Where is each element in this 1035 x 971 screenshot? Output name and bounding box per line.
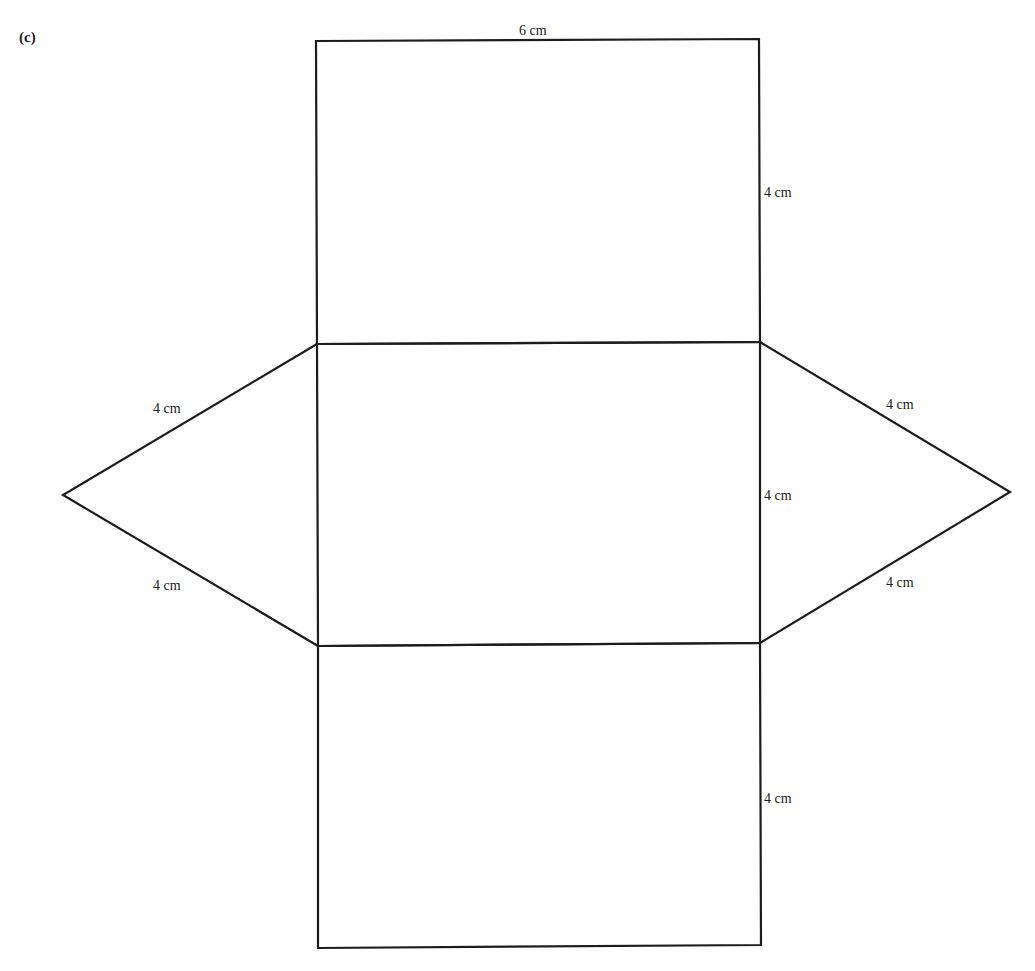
label-right-triangle-upper: 4 cm — [886, 397, 914, 412]
prism-net-diagram: (c) 6 cm 4 cm 4 cm 4 cm 4 cm 4 cm 4 cm 4… — [0, 0, 1035, 971]
label-top-rect-height: 4 cm — [764, 185, 792, 200]
label-bottom-rect-height: 4 cm — [764, 791, 792, 806]
label-left-triangle-upper: 4 cm — [153, 401, 181, 416]
bottom-rectangle — [318, 643, 761, 948]
right-triangle — [760, 342, 1010, 643]
middle-rectangle — [317, 342, 760, 646]
label-right-triangle-lower: 4 cm — [886, 575, 914, 590]
top-rectangle — [316, 39, 760, 344]
label-left-triangle-lower: 4 cm — [153, 578, 181, 593]
part-label: (c) — [19, 29, 36, 46]
label-top-width: 6 cm — [519, 23, 547, 38]
left-triangle — [63, 344, 318, 646]
label-middle-rect-height: 4 cm — [764, 488, 792, 503]
